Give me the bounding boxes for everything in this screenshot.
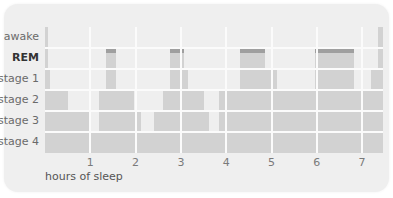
x-tick-label: 2	[129, 156, 143, 169]
rem-marker	[106, 49, 116, 53]
x-tick-label: 7	[355, 156, 369, 169]
sleep-segment	[50, 90, 69, 153]
y-label-stage1: stage 1	[0, 72, 39, 86]
hypnogram-plot	[45, 27, 383, 153]
x-tick-label: 6	[310, 156, 324, 169]
sleep-segment	[315, 48, 354, 153]
grid-line-horizontal	[45, 68, 383, 70]
x-axis-label: hours of sleep	[45, 170, 123, 183]
rem-marker	[240, 49, 265, 53]
sleep-segment	[219, 90, 240, 153]
sleep-segment	[208, 132, 220, 153]
grid-line-vertical	[361, 27, 363, 153]
rem-marker	[315, 49, 354, 53]
grid-line-vertical	[180, 27, 182, 153]
sleep-segment	[188, 90, 204, 153]
grid-line-vertical	[271, 27, 273, 153]
grid-line-vertical	[135, 27, 137, 153]
y-label-stage3: stage 3	[0, 114, 39, 128]
grid-line-horizontal	[45, 89, 383, 91]
grid-line-vertical	[89, 27, 91, 153]
grid-line-horizontal	[45, 47, 383, 49]
x-tick-label: 4	[219, 156, 233, 169]
sleep-segment	[276, 90, 315, 153]
sleep-segment	[140, 132, 154, 153]
grid-line-vertical	[316, 27, 318, 153]
grid-line-vertical	[225, 27, 227, 153]
x-tick-label: 5	[265, 156, 279, 169]
grid-line-horizontal	[45, 131, 383, 133]
y-label-stage4: stage 4	[0, 135, 39, 149]
sleep-segment	[115, 90, 134, 153]
y-label-awake: awake	[4, 30, 39, 44]
y-label-stage2: stage 2	[0, 93, 39, 107]
y-label-rem: REM	[12, 51, 39, 65]
x-tick-label: 3	[174, 156, 188, 169]
x-tick-label: 1	[83, 156, 97, 169]
grid-line-horizontal	[45, 110, 383, 112]
sleep-segment	[240, 48, 265, 153]
